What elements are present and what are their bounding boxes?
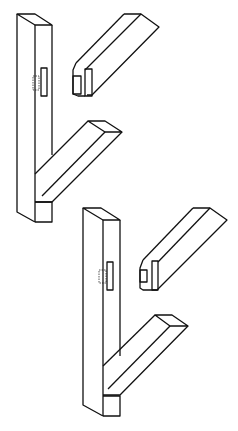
upper-tenon-rail — [73, 14, 159, 96]
lower-figure — [83, 208, 227, 416]
lower-post — [83, 208, 120, 416]
lower-tenon-rail — [140, 208, 227, 290]
upper-brace — [35, 121, 122, 202]
lower-mortise — [99, 262, 113, 290]
upper-figure — [17, 14, 159, 222]
joinery-diagram — [0, 0, 238, 431]
lower-brace — [103, 315, 188, 395]
